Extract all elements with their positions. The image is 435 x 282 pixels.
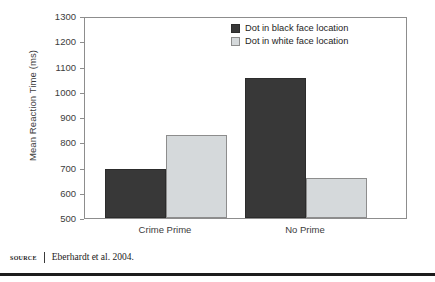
- bar: [245, 78, 306, 218]
- source-line: SOURCE Eberhardt et al. 2004.: [0, 252, 435, 263]
- bar: [105, 169, 166, 218]
- legend-swatch: [231, 37, 240, 46]
- y-tick-label: 1000: [44, 87, 76, 98]
- y-tick-label: 900: [44, 112, 76, 123]
- legend-label: Dot in black face location: [245, 23, 348, 33]
- legend: Dot in black face locationDot in white f…: [231, 23, 348, 49]
- y-tick-label: 800: [44, 137, 76, 148]
- source-label: SOURCE: [10, 253, 44, 262]
- legend-item: Dot in black face location: [231, 23, 348, 33]
- legend-item: Dot in white face location: [231, 36, 348, 46]
- source-block: SOURCE Eberhardt et al. 2004.: [0, 252, 435, 263]
- y-tick-mark: [80, 219, 84, 220]
- y-tick-label: 600: [44, 188, 76, 199]
- bar: [166, 135, 227, 218]
- y-tick-label: 500: [44, 213, 76, 224]
- bar: [306, 178, 367, 218]
- legend-label: Dot in white face location: [245, 36, 348, 46]
- legend-swatch: [231, 24, 240, 33]
- source-citation: Eberhardt et al. 2004.: [45, 252, 134, 262]
- y-tick-label: 1100: [44, 62, 76, 73]
- figure: Mean Reaction Time (ms) 1300120011001000…: [0, 0, 435, 248]
- x-axis-label: No Prime: [245, 224, 365, 235]
- y-tick-label: 1200: [44, 36, 76, 47]
- y-tick-label: 1300: [44, 11, 76, 22]
- bottom-rule: [0, 273, 435, 276]
- y-tick-label: 700: [44, 163, 76, 174]
- x-axis-label: Crime Prime: [105, 224, 225, 235]
